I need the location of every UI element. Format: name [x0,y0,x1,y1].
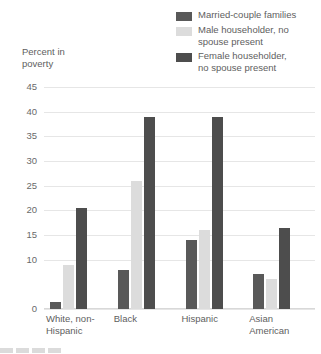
bleed-legend-strip [0,348,321,353]
y-axis-tick-label: 30 [26,156,37,166]
bleed-swatch-icon [48,348,61,353]
y-axis-tick-label: 45 [26,82,37,92]
bar-groups [44,87,315,309]
bleed-swatch-icon [32,348,45,353]
gridline [44,309,315,310]
x-axis-category-label: Asian American [247,313,315,336]
x-axis-category-label: White, non- Hispanic [44,313,112,336]
chart-legend: Married-couple families Male householder… [176,9,321,76]
bar [253,274,264,309]
bar [199,230,210,309]
legend-item-female-householder: Female householder, no spouse present [176,50,321,73]
bars [112,87,180,309]
y-axis-tick-label: 20 [26,206,37,216]
adjacent-figure-bleed [0,348,321,354]
bars [180,87,248,309]
y-axis-tick-label: 15 [26,230,37,240]
bar-group [44,87,112,309]
bar [266,279,277,309]
y-axis-tick-label: 35 [26,132,37,142]
legend-label: Male householder, no spouse present [198,24,289,47]
x-axis-category-label: Hispanic [180,313,248,336]
bar [144,117,155,309]
y-axis-tick-label: 0 [32,304,37,314]
bar [131,181,142,309]
bar [186,240,197,309]
legend-item-male-householder: Male householder, no spouse present [176,24,321,47]
bar [118,270,129,309]
legend-swatch-icon [176,12,192,21]
bars [44,87,112,309]
bar [279,228,290,309]
bleed-swatch-icon [16,348,29,353]
bar [76,208,87,309]
y-axis-tick-label: 40 [26,107,37,117]
legend-swatch-icon [176,53,192,62]
y-axis-tick-label: 10 [26,255,37,265]
x-axis-category-label: Black [112,313,180,336]
bleed-swatch-icon [0,348,13,353]
legend-swatch-icon [176,27,192,36]
plot-area: 45403530252015100 [44,87,315,309]
legend-item-married-couple-families: Married-couple families [176,9,321,21]
y-axis-title: Percent in poverty [22,46,65,69]
legend-label: Female householder, no spouse present [198,50,287,73]
bar-group [180,87,248,309]
bar-group [247,87,315,309]
x-axis-category-labels: White, non- HispanicBlackHispanicAsian A… [44,313,315,336]
bars [247,87,315,309]
bar [63,265,74,309]
y-axis-tick-label: 25 [26,181,37,191]
legend-label: Married-couple families [198,9,296,21]
bar [212,117,223,309]
bar-group [112,87,180,309]
poverty-bar-chart-figure: Married-couple families Male householder… [0,0,321,354]
bar [50,302,61,309]
